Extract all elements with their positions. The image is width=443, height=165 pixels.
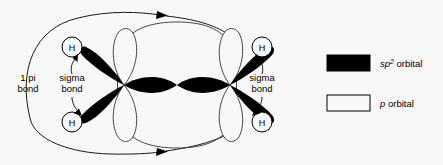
pi-bond-label-line1: 1 pi xyxy=(20,72,35,83)
sigma-bond-right-label-line1: sigma xyxy=(249,72,275,83)
sp2-orbital-group xyxy=(80,47,274,124)
pi-bond-arrow-top-tail xyxy=(166,16,228,34)
legend-group: sp2 orbital p orbital xyxy=(327,55,422,111)
pi-bond-arrowhead-top xyxy=(156,11,168,19)
sp2-lobe-left-center xyxy=(124,77,177,93)
atom-label-h-bottom-right: H xyxy=(259,118,266,128)
pi-bond-label-group: 1 pi bond xyxy=(17,72,38,94)
pi-cloud-upper xyxy=(122,22,232,47)
atom-h-top-left: H xyxy=(62,37,82,57)
atom-label-h-bottom-left: H xyxy=(69,118,76,128)
sp2-lobe-right-center xyxy=(177,77,230,93)
pi-bond-arrowhead-bottom xyxy=(156,148,168,156)
atom-label-h-top-right: H xyxy=(259,43,266,53)
legend-label-sp2-orbital: sp2 orbital xyxy=(380,58,422,70)
sigma-bond-left-label-line1: sigma xyxy=(59,72,85,83)
pi-bond-label-line2: bond xyxy=(17,83,38,94)
legend-text-p: orbital xyxy=(385,98,414,109)
legend-text-sp2: orbital xyxy=(394,58,423,69)
sigma-bond-right-label-line2: bond xyxy=(251,83,272,94)
atom-label-h-top-left: H xyxy=(69,43,76,53)
legend-swatch-sp2-orbital xyxy=(327,55,370,71)
pi-cloud-lower xyxy=(122,123,232,148)
sigma-bond-left-annotation: sigma bond xyxy=(59,54,85,116)
diagram-canvas: H H H H sigma bond xyxy=(0,0,443,165)
orbital-diagram-figure: H H H H sigma bond xyxy=(0,0,443,165)
sigma-bond-left-label-line2: bond xyxy=(61,83,82,94)
legend-label-p-orbital: p orbital xyxy=(379,98,414,109)
legend-swatch-p-orbital xyxy=(327,95,370,111)
legend-symbol-sp2: sp xyxy=(380,58,390,69)
pi-bond-arrow-bottom-tail xyxy=(166,134,228,151)
pi-bond-arrow-bottom xyxy=(30,118,160,154)
atom-h-top-right: H xyxy=(252,37,272,57)
